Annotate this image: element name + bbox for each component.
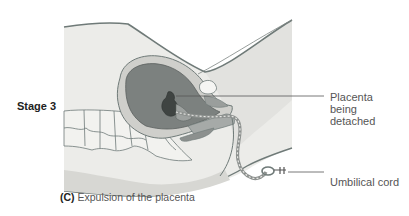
- cord-clamp: [274, 167, 286, 174]
- figure-caption: (C) Expulsion of the placenta: [60, 191, 195, 203]
- placenta-callout-line-1: Placenta: [330, 91, 408, 103]
- placenta-callout-line-3: detached: [330, 115, 408, 127]
- stage-label: Stage 3: [17, 100, 56, 112]
- bladder: [199, 80, 216, 94]
- placenta-callout-line-2: being: [330, 103, 408, 115]
- cord-coil: [262, 167, 274, 175]
- caption-letter: (C): [60, 191, 75, 203]
- umbilical-cord-callout: Umbilical cord: [330, 176, 399, 188]
- placenta-callout: Placenta being detached: [330, 91, 408, 127]
- caption-text: Expulsion of the placenta: [75, 191, 195, 203]
- labor-stage-3-diagram: Stage 3 Placenta being detached Umbilica…: [0, 0, 409, 216]
